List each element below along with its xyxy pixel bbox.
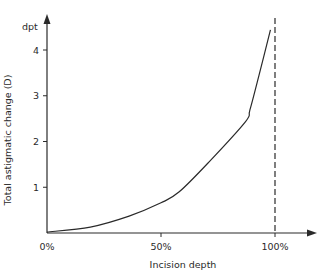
x-tick-label: 0% xyxy=(39,241,54,252)
x-ticks: 0%50%100% xyxy=(39,233,288,252)
x-tick-label: 50% xyxy=(150,241,171,252)
y-tick-label: 2 xyxy=(33,136,39,147)
y-tick-label: 3 xyxy=(33,90,39,101)
y-axis-arrow-icon xyxy=(44,14,51,24)
data-curve xyxy=(47,30,270,232)
y-unit-label: dpt xyxy=(22,21,38,32)
y-ticks: 1234 xyxy=(33,45,47,193)
y-axis-title: Total astigmatic change (D) xyxy=(2,75,13,207)
x-axis-arrow-icon xyxy=(307,230,317,237)
chart: dpt 1234 0%50%100% Total astigmatic chan… xyxy=(0,0,319,272)
y-tick-label: 1 xyxy=(33,182,39,193)
y-tick-label: 4 xyxy=(33,45,39,56)
x-axis-title: Incision depth xyxy=(150,259,217,270)
x-tick-label: 100% xyxy=(261,241,288,252)
